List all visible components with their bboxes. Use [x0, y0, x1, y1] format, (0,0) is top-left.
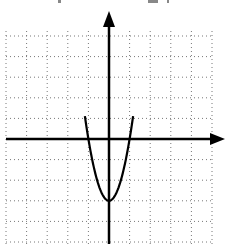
x-axis-arrow-icon — [210, 133, 225, 145]
axes — [6, 11, 225, 244]
graph-plot — [0, 0, 225, 244]
y-axis-arrow-icon — [103, 11, 115, 27]
